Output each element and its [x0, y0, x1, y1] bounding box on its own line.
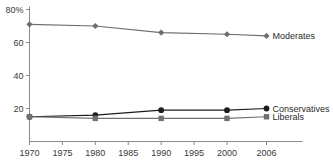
data-point-marker: [224, 107, 230, 113]
series-label-moderates: Moderates: [273, 31, 316, 41]
x-tick-label: 1985: [118, 148, 138, 158]
series-line: [30, 24, 267, 36]
data-point-marker: [158, 30, 164, 36]
x-tick-label: 1995: [184, 148, 204, 158]
data-point-marker: [27, 114, 32, 119]
line-chart: 20406080% 197019751980198519901995200020…: [0, 0, 333, 165]
x-tick-label: 1990: [151, 148, 171, 158]
y-tick-label: 40: [13, 71, 23, 81]
data-point-marker: [224, 31, 230, 37]
x-axis: 19701975198019851990199520002006: [19, 142, 302, 158]
y-tick-label: 60: [13, 38, 23, 48]
x-tick-label: 1970: [19, 148, 39, 158]
x-tick-label: 1980: [85, 148, 105, 158]
data-point-marker: [263, 33, 269, 39]
chart-plot-area: 20406080% 197019751980198519901995200020…: [0, 0, 333, 165]
data-point-marker: [264, 106, 270, 112]
y-tick-label: 20: [13, 104, 23, 114]
x-tick-label: 2006: [256, 148, 276, 158]
series-line: [30, 109, 267, 117]
data-point-marker: [26, 21, 32, 27]
series-label-liberals: Liberals: [273, 112, 305, 122]
x-tick-label: 2000: [217, 148, 237, 158]
data-point-marker: [93, 116, 98, 121]
y-tick-label: 80%: [5, 5, 23, 15]
data-point-marker: [158, 116, 163, 121]
data-point-marker: [224, 116, 229, 121]
series-labels: ModeratesConservativesLiberals: [273, 31, 331, 122]
x-tick-label: 1975: [52, 148, 72, 158]
y-axis: 20406080%: [5, 5, 29, 142]
data-point-marker: [92, 23, 98, 29]
data-point-marker: [158, 107, 164, 113]
data-point-marker: [264, 114, 269, 119]
series-line: [30, 117, 267, 119]
series-container: [26, 21, 269, 121]
